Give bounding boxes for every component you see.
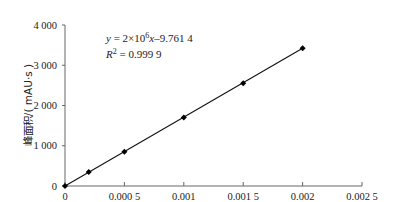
data-point-marker (121, 149, 127, 155)
y-axis-label: 峰面积/( mAU·s ) (22, 64, 34, 146)
calibration-chart: 01 0002 0003 0004 00000.000 50.0010.001 … (0, 0, 398, 202)
y-tick-label: 3 000 (33, 60, 57, 71)
x-tick-label: 0 (62, 191, 67, 202)
y-tick-label: 4 000 (33, 20, 57, 31)
x-tick-label: 0.001 (172, 191, 196, 202)
data-series (62, 45, 306, 189)
regression-equation: y = 2×106x–9.761 4 (105, 31, 193, 44)
data-point-marker (62, 183, 68, 189)
data-point-marker (300, 45, 306, 51)
r-squared: R2 = 0.999 9 (105, 47, 162, 60)
y-tick-label: 0 (52, 181, 57, 192)
y-tick-label: 1 000 (33, 140, 57, 151)
x-tick-label: 0.002 (291, 191, 315, 202)
x-tick-label: 0.002 5 (346, 191, 378, 202)
x-tick-label: 0.000 5 (109, 191, 141, 202)
x-tick-label: 0.001 5 (227, 191, 259, 202)
y-tick-label: 2 000 (33, 100, 57, 111)
